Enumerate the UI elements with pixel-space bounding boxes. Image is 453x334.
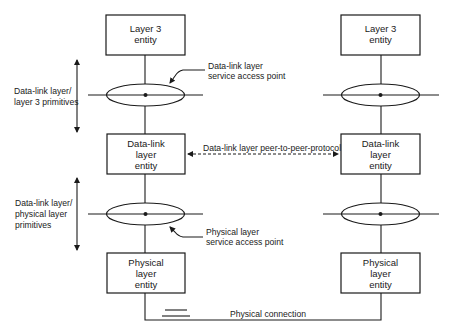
right-datalink-label-1: Data-link [362, 138, 400, 149]
right-layer3-label-1: Layer 3 [365, 23, 397, 34]
left-layer3-label-2: entity [134, 34, 157, 45]
physical-connection: Physical connection [145, 293, 381, 320]
left-stack: Layer 3 entity Data-link layer entity Ph… [88, 15, 203, 293]
right-datalink-label-3: entity [369, 160, 392, 171]
right-layer3-label-2: entity [369, 34, 392, 45]
dl-sap-callout: Data-link layer service access point [170, 61, 286, 83]
right-datalink-label-2: layer [370, 149, 391, 160]
dl-phys-primitives-annotation: Data-link layer/ physical layer primitiv… [15, 178, 77, 250]
left-datalink-label-1: Data-link [127, 138, 165, 149]
left-layer3-label-1: Layer 3 [130, 23, 162, 34]
left-phys-sap-dot [144, 212, 148, 216]
dl-sap-label-2: service access point [208, 71, 286, 81]
right-stack: Layer 3 entity Data-link layer entity Ph… [323, 15, 439, 293]
osi-layer-diagram: Layer 3 entity Data-link layer entity Ph… [0, 0, 453, 334]
left-datalink-label-3: entity [135, 160, 158, 171]
physical-connection-label: Physical connection [230, 309, 306, 319]
left-datalink-label-2: layer [136, 149, 157, 160]
phys-sap-pointer-arrow [170, 227, 203, 237]
left-physical-label-3: entity [135, 279, 158, 290]
dl-phys-primitives-label-1: Data-link layer/ [15, 198, 73, 208]
peer-protocol-label: Data-link layer peer-to-peer-protocol [203, 143, 341, 153]
phys-sap-callout: Physical layer service access point [170, 227, 284, 247]
left-physical-label-1: Physical [128, 257, 163, 268]
dl-l3-primitives-label-1: Data-link layer/ [14, 86, 72, 96]
dl-l3-primitives-annotation: Data-link layer/ layer 3 primitives [14, 60, 78, 132]
dl-sap-pointer-arrow [170, 70, 205, 83]
left-dl-sap-dot [144, 93, 148, 97]
right-physical-label-3: entity [369, 279, 392, 290]
dl-phys-primitives-label-2: physical layer [15, 209, 67, 219]
right-physical-label-1: Physical [363, 257, 398, 268]
right-physical-label-2: layer [370, 268, 391, 279]
peer-to-peer-protocol: Data-link layer peer-to-peer-protocol [188, 143, 341, 154]
right-dl-sap-dot [379, 93, 383, 97]
phys-sap-label-1: Physical layer [206, 227, 259, 237]
phys-sap-label-2: service access point [206, 237, 284, 247]
dl-l3-primitives-label-2: layer 3 primitives [14, 97, 78, 107]
right-phys-sap-dot [379, 212, 383, 216]
left-physical-label-2: layer [136, 268, 157, 279]
dl-phys-primitives-label-3: primitives [15, 220, 51, 230]
dl-sap-label-1: Data-link layer [208, 61, 263, 71]
